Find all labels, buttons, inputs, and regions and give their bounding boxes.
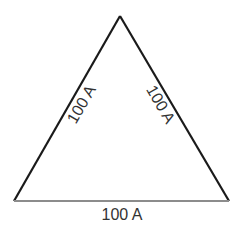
triangle-diagram: 100 A 100 A 100 A <box>0 0 242 229</box>
left-side-line <box>14 16 120 201</box>
bottom-side-label: 100 A <box>102 206 143 223</box>
right-side-line <box>120 16 229 201</box>
